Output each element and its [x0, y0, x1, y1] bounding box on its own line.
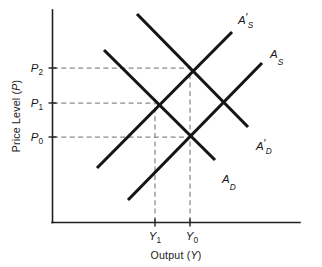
x-tick-label-y0: Y0 [186, 230, 199, 245]
x-tick-label-y1: Y1 [149, 230, 162, 245]
curves-group [97, 14, 262, 200]
y-axis-title: Price Level (P) [10, 80, 22, 153]
x-axis-title: Output (Y) [151, 249, 202, 261]
curve-label-as: AS [269, 48, 284, 67]
curve-label-ad-prime: A′D [255, 137, 272, 156]
y-tick-label-p1: P1 [31, 97, 44, 112]
axis-group [52, 10, 300, 223]
curve-aggregate-supply-shifted [97, 32, 232, 168]
y-tick-label-p0: P0 [31, 131, 44, 146]
curve-aggregate-supply [128, 63, 262, 200]
curve-label-ad: AD [221, 173, 236, 192]
y-tick-label-p2: P2 [31, 62, 44, 77]
aggregate-supply-demand-figure: P2 P1 P0 Y1 Y0 A′S AS A′D AD Price [0, 0, 322, 267]
curve-label-as-prime: A′S [237, 11, 254, 30]
